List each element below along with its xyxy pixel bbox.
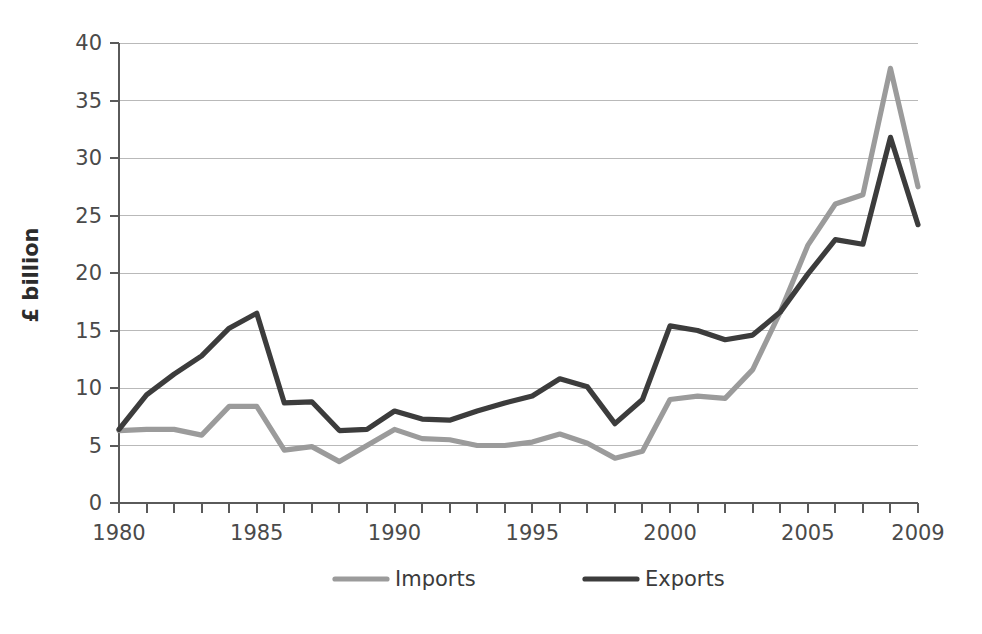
x-tick-marks: [119, 503, 918, 513]
x-tick-label: 2005: [781, 521, 834, 545]
x-tick-label: 1995: [506, 521, 559, 545]
series-line-exports: [119, 137, 918, 430]
gridlines: [119, 43, 918, 446]
data-series: [119, 68, 918, 461]
chart-legend: ImportsExports: [335, 567, 725, 591]
legend-label-imports: Imports: [395, 567, 476, 591]
series-line-imports: [119, 68, 918, 461]
y-tick-label: 30: [75, 146, 102, 170]
y-axis-title: £ billion: [19, 227, 43, 322]
y-tick-label: 40: [75, 31, 102, 55]
y-tick-label: 5: [89, 434, 102, 458]
chart-canvas: 0510152025303540 19801985199019952000200…: [0, 0, 982, 634]
x-tick-label: 1980: [92, 521, 145, 545]
y-tick-label: 0: [89, 491, 102, 515]
y-tick-marks: [110, 43, 119, 503]
y-tick-label: 15: [75, 319, 102, 343]
y-tick-label: 25: [75, 204, 102, 228]
legend-label-exports: Exports: [645, 567, 725, 591]
x-tick-label: 2000: [643, 521, 696, 545]
y-tick-label: 10: [75, 376, 102, 400]
y-tick-label: 35: [75, 89, 102, 113]
y-tick-label: 20: [75, 261, 102, 285]
x-tick-label: 2009: [891, 521, 944, 545]
x-tick-label: 1985: [230, 521, 283, 545]
x-tick-label: 1990: [368, 521, 421, 545]
line-chart: 0510152025303540 19801985199019952000200…: [0, 0, 982, 634]
x-tick-labels: 1980198519901995200020052009: [92, 521, 944, 545]
y-tick-labels: 0510152025303540: [75, 31, 102, 515]
